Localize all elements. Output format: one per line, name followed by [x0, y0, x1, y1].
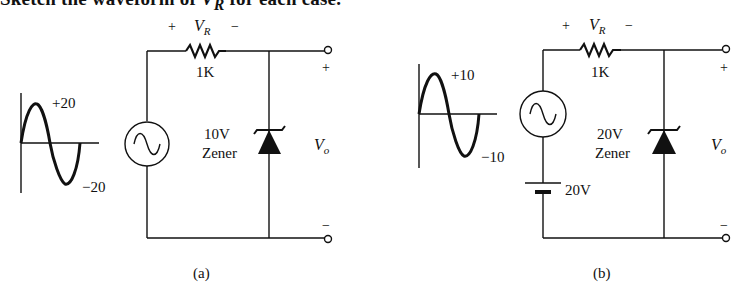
vr-plus-b: + — [562, 18, 570, 33]
output-terminal-minus-b — [723, 235, 730, 242]
out-minus-b: − — [720, 218, 728, 233]
circuit-diagrams: +20 −20 + VR − 1K 10V Zener + − Vo (a) — [0, 0, 740, 297]
output-terminal-plus-a — [325, 47, 332, 54]
resistor-value-b: 1K — [591, 64, 610, 80]
vr-label-a: VR — [194, 17, 211, 37]
peak-neg-b: −10 — [481, 149, 504, 165]
circuit-a — [21, 45, 332, 243]
resistor-value-a: 1K — [196, 64, 215, 80]
vo-label-a: Vo — [314, 136, 330, 156]
output-terminal-plus-b — [723, 46, 730, 53]
battery-value-b: 20V — [565, 182, 591, 198]
zener-value-a: 10V — [204, 126, 230, 142]
vr-minus-b: − — [625, 18, 633, 33]
ac-source-icon-a — [125, 51, 169, 238]
vr-label-b: VR — [589, 16, 606, 36]
resistor-icon-b — [580, 44, 621, 56]
resistor-icon-a — [186, 45, 226, 57]
zener-label-b: Zener — [595, 145, 630, 161]
ac-source-icon-b — [520, 50, 566, 183]
battery-icon-b — [525, 183, 561, 238]
vo-label-b: Vo — [711, 136, 727, 156]
out-plus-b: + — [720, 60, 728, 75]
zener-diode-icon-b — [648, 126, 680, 154]
caption-a: (a) — [193, 265, 210, 282]
caption-b: (b) — [593, 265, 611, 282]
out-plus-a: + — [322, 60, 330, 75]
vr-plus-a: + — [168, 19, 176, 34]
peak-neg-a: −20 — [82, 179, 105, 195]
zener-value-b: 20V — [597, 126, 623, 142]
vr-minus-a: − — [231, 19, 239, 34]
output-terminal-minus-a — [325, 236, 332, 243]
zener-label-a: Zener — [202, 145, 237, 161]
peak-pos-b: +10 — [451, 67, 474, 83]
out-minus-a: − — [322, 218, 330, 233]
labels-a: +20 −20 + VR − 1K 10V Zener + − Vo (a) — [52, 17, 330, 282]
zener-diode-icon-a — [254, 126, 285, 154]
peak-pos-a: +20 — [52, 95, 75, 111]
